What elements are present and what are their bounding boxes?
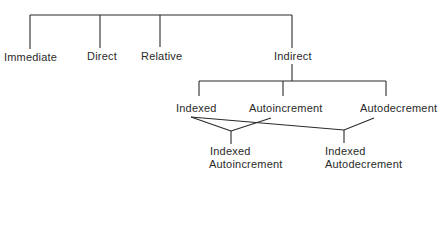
- autoinc-to-idx-autoinc: [231, 118, 271, 131]
- node-indexed-autodecrement-line1: Indexed: [325, 145, 366, 158]
- node-direct: Direct: [87, 50, 117, 63]
- node-indexed-autoincrement-line1: Indexed: [210, 145, 270, 158]
- node-autoincrement: Autoincrement: [249, 102, 323, 115]
- autodec-to-idx-autodec: [344, 118, 374, 130]
- node-autodecrement: Autodecrement: [360, 102, 437, 115]
- node-indirect: Indirect: [274, 50, 312, 63]
- node-indexed-autodecrement-line2: Autodecrement: [325, 158, 402, 171]
- node-relative: Relative: [141, 50, 182, 63]
- node-indexed-autoincrement-line2: Autoincrement: [209, 158, 283, 171]
- node-immediate: Immediate: [4, 51, 57, 64]
- node-indexed: Indexed: [176, 102, 217, 115]
